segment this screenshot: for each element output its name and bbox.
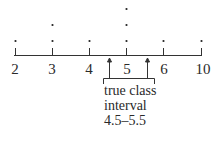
arrow-up-icon (146, 58, 150, 62)
tick-label-4: 4 (85, 61, 93, 77)
class-interval-annotation: true class interval 4.5–5.5 (104, 83, 156, 128)
axis-tick-labels: 2 3 4 5 6 10 (11, 61, 210, 77)
dot (14, 40, 16, 42)
annotation-line-3: 4.5–5.5 (104, 113, 156, 128)
dot (51, 24, 53, 26)
data-dots (14, 8, 202, 42)
tick-label-3: 3 (48, 61, 56, 77)
tick-label-10: 10 (196, 61, 211, 77)
dot (125, 8, 127, 10)
tick-label-5: 5 (123, 61, 131, 77)
tick-label-6: 6 (160, 61, 168, 77)
dot (200, 40, 202, 42)
annotation-line-2: interval (104, 98, 156, 113)
dot (125, 40, 127, 42)
dot (125, 24, 127, 26)
dot (162, 40, 164, 42)
dot (88, 40, 90, 42)
annotation-line-1: true class (104, 83, 156, 98)
axis-ticks (16, 48, 202, 56)
arrow-up-icon (108, 58, 112, 62)
tick-label-2: 2 (11, 61, 19, 77)
dot (51, 40, 53, 42)
